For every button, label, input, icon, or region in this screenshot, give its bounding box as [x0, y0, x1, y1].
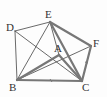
- label-f: F: [93, 37, 99, 49]
- geometry-diagram: A B C D E F: [0, 0, 107, 97]
- figure-svg: A B C D E F: [0, 0, 107, 97]
- label-b: B: [9, 81, 16, 93]
- thick-segment-bc: [17, 80, 82, 81]
- label-c: C: [82, 81, 89, 93]
- label-d: D: [6, 21, 14, 33]
- segment-de: [15, 22, 50, 31]
- label-a: A: [54, 42, 62, 54]
- thin-segments: [15, 22, 91, 81]
- thick-segment-fc: [82, 46, 91, 81]
- segment-db: [15, 31, 17, 80]
- segment-dc: [15, 31, 82, 81]
- thick-segment-ba: [17, 55, 59, 80]
- label-e: E: [45, 8, 52, 20]
